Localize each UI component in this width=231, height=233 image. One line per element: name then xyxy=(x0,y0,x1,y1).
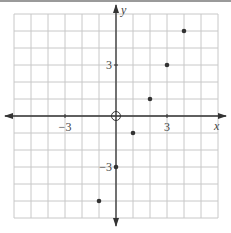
y-axis-down-arrow-icon xyxy=(113,218,119,227)
y-axis-up-arrow-icon xyxy=(113,4,119,13)
y-tick-label: 3 xyxy=(106,58,112,72)
data-point xyxy=(148,97,153,102)
y-tick-label: −3 xyxy=(99,160,112,174)
data-point xyxy=(97,199,102,204)
x-axis-left-arrow-icon xyxy=(4,113,13,119)
y-axis-label: y xyxy=(120,3,127,17)
data-point xyxy=(131,131,136,136)
x-tick-label: −3 xyxy=(59,120,72,134)
data-point xyxy=(165,63,170,68)
coordinate-plane: xy−333−3 xyxy=(0,0,231,233)
data-point xyxy=(114,165,119,170)
x-tick-label: 3 xyxy=(164,120,170,134)
data-point xyxy=(182,29,187,34)
x-axis-label: x xyxy=(213,119,220,133)
x-axis-right-arrow-icon xyxy=(218,113,227,119)
